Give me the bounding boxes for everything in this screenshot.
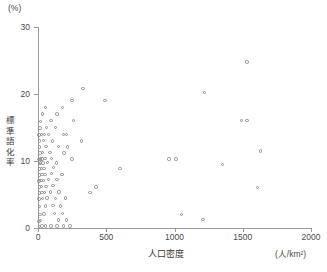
data-point <box>53 212 56 215</box>
data-point <box>38 145 41 148</box>
y-tick-label: 30 <box>8 22 30 32</box>
x-tick-label: 0 <box>21 232 55 242</box>
data-point <box>41 112 44 115</box>
data-point <box>42 167 45 170</box>
data-point <box>42 212 45 215</box>
x-tick-label: 500 <box>89 232 123 242</box>
data-point <box>60 173 63 176</box>
data-point <box>50 157 53 160</box>
data-point <box>43 133 46 136</box>
data-point <box>43 191 46 194</box>
data-point <box>43 173 46 176</box>
data-point <box>45 126 48 129</box>
data-point <box>47 133 50 136</box>
data-point <box>43 157 46 160</box>
data-point <box>57 190 60 193</box>
data-point <box>38 126 41 129</box>
data-point <box>42 139 45 142</box>
data-point <box>55 178 58 181</box>
data-point <box>48 151 51 154</box>
data-point <box>94 185 97 188</box>
data-point <box>64 196 67 199</box>
y-axis-unit-label: (%) <box>8 4 21 13</box>
data-point <box>42 179 45 182</box>
data-point <box>49 190 52 193</box>
data-point <box>38 205 41 208</box>
data-point <box>44 145 47 148</box>
data-point <box>44 106 47 109</box>
data-point <box>41 161 44 164</box>
data-point <box>44 204 47 207</box>
data-point <box>72 119 75 122</box>
x-tick-label: 1500 <box>226 232 260 242</box>
data-point <box>41 197 44 200</box>
data-point <box>174 157 177 160</box>
data-point <box>54 126 57 129</box>
data-point <box>50 172 53 175</box>
data-point <box>57 145 60 148</box>
data-point <box>240 119 243 122</box>
data-point <box>44 224 47 227</box>
data-point <box>38 139 41 142</box>
data-point <box>47 178 50 181</box>
y-tick-label: 10 <box>8 156 30 166</box>
data-point <box>49 119 52 122</box>
data-point <box>103 99 106 102</box>
y-axis-title-char: 語 <box>5 136 16 147</box>
data-point <box>49 224 52 227</box>
y-axis-title-char: 準 <box>5 126 16 137</box>
data-point <box>66 145 69 148</box>
scatter-chart: (%) 標準語化率 0102030 0500100015002000 人口密度 … <box>0 0 327 272</box>
data-point <box>55 224 58 227</box>
y-tick <box>34 94 38 95</box>
y-tick-label: 20 <box>8 89 30 99</box>
data-point <box>65 218 68 221</box>
x-axis-unit-label: (人/km²) <box>275 250 306 259</box>
data-point <box>118 167 121 170</box>
data-point <box>88 191 91 194</box>
x-tick-label: 1000 <box>158 232 192 242</box>
data-point <box>61 212 64 215</box>
data-point <box>45 196 48 199</box>
x-axis-title: 人口密度 <box>148 250 184 259</box>
data-point <box>41 151 44 154</box>
data-point <box>180 213 183 216</box>
data-point <box>256 186 259 189</box>
data-point <box>259 149 262 152</box>
data-point <box>46 161 49 164</box>
data-point <box>55 112 58 115</box>
data-point <box>62 151 65 154</box>
data-point <box>39 219 42 222</box>
data-point <box>221 163 224 166</box>
data-point <box>201 218 204 221</box>
data-point <box>39 120 42 123</box>
data-point <box>68 224 71 227</box>
data-point <box>81 87 84 90</box>
data-point <box>61 106 64 109</box>
data-point <box>62 224 65 227</box>
y-tick <box>34 27 38 28</box>
data-point <box>51 139 54 142</box>
data-point <box>55 161 58 164</box>
data-point <box>44 185 47 188</box>
data-point <box>57 218 60 221</box>
data-point <box>40 185 43 188</box>
data-point <box>51 184 54 187</box>
data-point <box>51 204 54 207</box>
data-point <box>203 91 206 94</box>
data-point <box>167 157 170 160</box>
data-point <box>54 197 57 200</box>
x-tick-label: 2000 <box>294 232 327 242</box>
data-point <box>52 166 55 169</box>
data-point <box>38 213 41 216</box>
data-point <box>80 139 83 142</box>
data-point <box>70 157 73 160</box>
data-point <box>245 119 248 122</box>
data-point <box>59 204 62 207</box>
data-point <box>65 133 68 136</box>
data-point <box>70 99 73 102</box>
data-point <box>245 60 248 63</box>
y-axis-title-char: 標 <box>5 115 16 126</box>
